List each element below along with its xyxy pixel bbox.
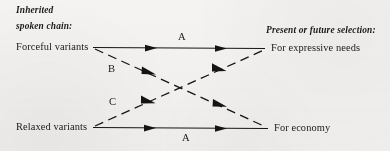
edge-a-top-line xyxy=(93,48,265,49)
edge-a-bottom-line xyxy=(93,128,268,129)
node-label-for-economy: For economy xyxy=(274,122,330,134)
edge-a-bottom-arrowhead-2 xyxy=(215,125,227,132)
edge-label-a-top: A xyxy=(178,31,186,44)
node-label-relaxed-variants: Relaxed variants xyxy=(16,121,87,133)
edge-label-b: B xyxy=(108,63,115,76)
edge-a-bottom-arrowhead-1 xyxy=(144,125,156,132)
edge-b-arrowhead-1 xyxy=(142,67,157,75)
edge-c-line xyxy=(95,50,264,126)
edge-a-top-arrowhead-2 xyxy=(215,45,227,52)
edge-label-a-bottom: A xyxy=(182,132,190,145)
figure-canvas: Inherited spoken chain: Present or futur… xyxy=(0,0,390,151)
edge-b-arrowhead-2 xyxy=(213,99,228,107)
node-label-forceful-variants: Forceful variants xyxy=(16,41,88,53)
edge-a-top-arrowhead-1 xyxy=(145,45,157,52)
node-label-for-expressive-needs: For expressive needs xyxy=(271,42,360,54)
left-header-line2: spoken chain: xyxy=(16,21,72,32)
right-header: Present or future selection: xyxy=(266,25,376,36)
edge-c-arrowhead-2 xyxy=(212,63,227,71)
edge-label-c: C xyxy=(109,96,116,109)
left-header-line1: Inherited xyxy=(16,5,53,16)
